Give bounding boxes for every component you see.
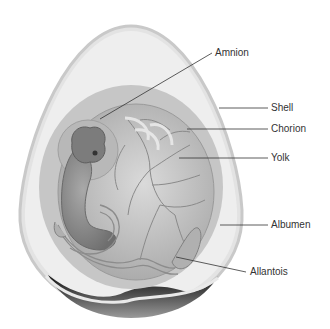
label-yolk: Yolk (271, 153, 290, 163)
egg-diagram (0, 0, 330, 329)
label-shell: Shell (271, 103, 293, 113)
label-allantois: Allantois (250, 267, 288, 277)
label-albumen: Albumen (271, 220, 310, 230)
label-chorion: Chorion (271, 124, 306, 134)
label-amnion: Amnion (215, 48, 249, 58)
